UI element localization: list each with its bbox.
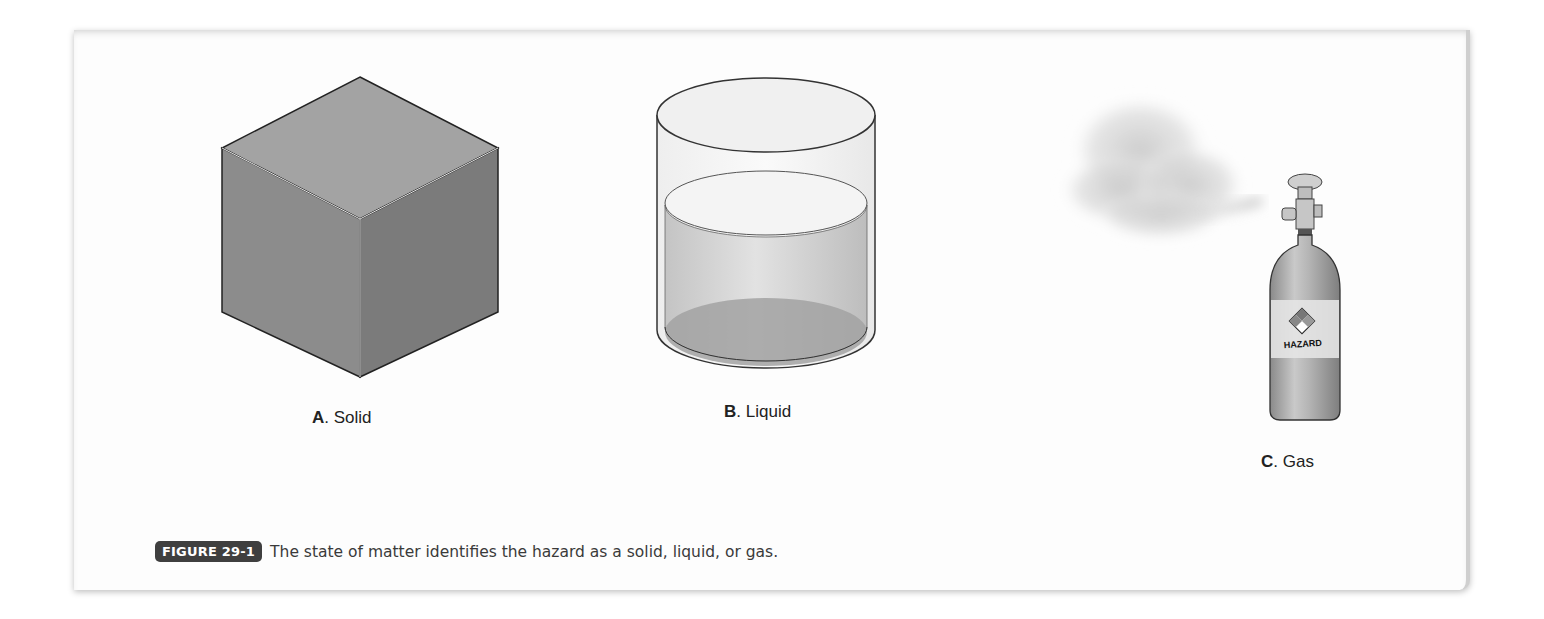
- panel-b-label: B. Liquid: [724, 402, 791, 422]
- liquid-container-illustration: [650, 75, 882, 375]
- panel-a-name: Solid: [334, 408, 372, 427]
- figure-caption-text: The state of matter identifies the hazar…: [270, 543, 778, 561]
- panel-c-letter: C: [1261, 452, 1273, 471]
- panel-b-name: Liquid: [746, 402, 791, 421]
- panel-c-label: C. Gas: [1261, 452, 1314, 472]
- panel-c-name: Gas: [1283, 452, 1314, 471]
- panel-b-letter: B: [724, 402, 736, 421]
- figure-caption: FIGURE 29-1 The state of matter identifi…: [155, 541, 778, 562]
- panel-a-label: A. Solid: [312, 408, 372, 428]
- gas-cloud: [1060, 95, 1245, 240]
- gas-cylinder-illustration: HAZARD: [1040, 75, 1350, 425]
- solid-cube-illustration: [215, 72, 505, 384]
- figure-number-badge: FIGURE 29-1: [155, 541, 262, 562]
- panel-a-letter: A: [312, 408, 324, 427]
